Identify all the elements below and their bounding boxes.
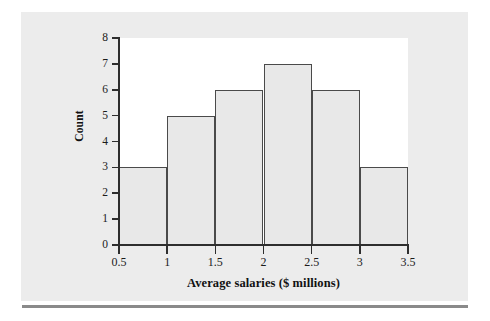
x-axis-tick-label: 0.5 (99, 256, 139, 269)
y-axis-tick-label: 3 (88, 161, 108, 173)
y-axis-tick-label: 5 (88, 110, 108, 122)
x-axis-tick-label: 3.5 (388, 256, 428, 269)
histogram-bar (360, 167, 408, 245)
histogram-bar (312, 90, 360, 245)
y-axis-tick (112, 115, 119, 117)
y-axis-tick (112, 192, 119, 194)
x-axis-tick (263, 246, 265, 254)
y-axis-tick-label: 8 (88, 32, 108, 44)
y-axis-tick (112, 167, 119, 169)
bottom-divider-rule (22, 305, 468, 308)
x-axis-tick (118, 246, 120, 254)
x-axis-tick (215, 246, 217, 254)
y-axis-title: Count (73, 96, 85, 156)
y-axis-tick-label: 2 (88, 187, 108, 199)
x-axis-title: Average salaries ($ millions) (119, 276, 408, 291)
histogram-bar (167, 116, 215, 245)
y-axis-tick (112, 141, 119, 143)
x-axis-tick (166, 246, 168, 254)
y-axis-tick-label: 4 (88, 136, 108, 148)
y-axis-tick-label: 1 (88, 213, 108, 225)
x-axis-tick-label: 2.5 (292, 256, 332, 269)
x-axis-tick (311, 246, 313, 254)
histogram-bars (119, 38, 408, 245)
y-axis-tick (112, 37, 119, 39)
y-axis-tick (112, 218, 119, 220)
histogram-bar (215, 90, 263, 245)
x-axis-tick-label: 3 (340, 256, 380, 269)
y-axis-tick (112, 63, 119, 65)
histogram-figure: 012345678 0.511.522.533.5 Count Average … (0, 0, 490, 321)
x-axis-tick-label: 1 (147, 256, 187, 269)
y-axis-tick-label: 7 (88, 58, 108, 70)
x-axis-tick-label: 1.5 (195, 256, 235, 269)
y-axis-tick-label: 0 (88, 239, 108, 251)
x-axis-tick-label: 2 (244, 256, 284, 269)
x-axis-tick (407, 246, 409, 254)
x-axis-tick (359, 246, 361, 254)
y-axis-tick-label: 6 (88, 84, 108, 96)
histogram-bar (264, 64, 312, 245)
histogram-bar (119, 167, 167, 245)
y-axis-tick (112, 89, 119, 91)
